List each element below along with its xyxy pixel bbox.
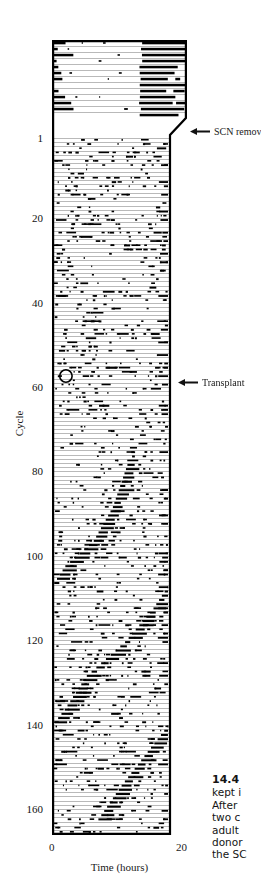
y-axis-title: Cycle [14,401,25,447]
figure-number: 14.4 [212,773,239,786]
caption-line: donor [212,836,261,848]
left-arrow-icon [190,127,210,136]
y-tick-label: 80 [32,466,43,477]
y-tick-label: 1 [38,133,44,144]
y-tick-label: 20 [32,213,43,224]
y-tick-label: 100 [27,551,44,562]
y-tick-label: 60 [32,382,43,393]
y-axis: 1 20 40 60 80 100 120 140 160 [0,0,52,884]
x-tick-label: 20 [176,842,187,853]
y-tick-label: 120 [27,635,44,646]
x-axis-title: Time (hours) [52,862,187,873]
caption-line: After [212,799,261,811]
annotation-label: SCN removal [214,126,261,137]
caption-line: kept i [212,786,261,798]
actogram-figure: 1 20 40 60 80 100 120 140 160 Cycle 0 20… [0,0,261,884]
x-tick-label: 0 [49,842,55,853]
actogram-raster-canvas [52,40,187,835]
y-tick-label: 160 [27,804,44,815]
figure-caption: 14.4 kept i After two c adult donor the … [212,773,261,861]
actogram-plot [52,40,187,835]
y-tick-label: 140 [27,720,44,731]
caption-line: the SC [212,848,261,860]
annotation-scn-removal: SCN removal [190,126,261,137]
annotation-label: Transplant [202,377,244,388]
annotation-transplant: Transplant [178,377,244,388]
y-tick-label: 40 [32,298,43,309]
left-arrow-icon [178,378,198,387]
caption-line: two c [212,811,261,823]
caption-line: adult [212,824,261,836]
